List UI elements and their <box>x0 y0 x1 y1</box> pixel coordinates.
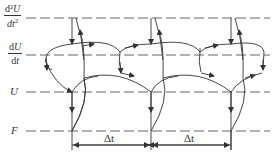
interval-dimensions <box>72 131 231 150</box>
integration-scheme-diagram <box>0 0 272 157</box>
interval-label-2: Δt <box>184 132 194 144</box>
interval-label-1: Δt <box>104 132 114 144</box>
